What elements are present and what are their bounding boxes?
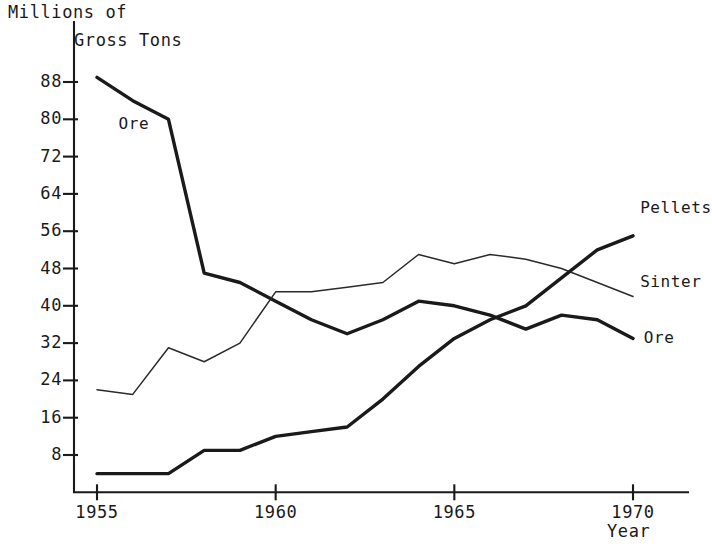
chart-series-lines [97, 77, 633, 473]
chart-tick-marks [63, 82, 633, 500]
series-label-ore: Ore [644, 328, 675, 347]
y-tick-label: 64 [10, 183, 62, 203]
series-label-pellets: Pellets [640, 198, 712, 217]
series-line-pellets [97, 236, 633, 474]
x-tick-label: 1955 [64, 502, 130, 522]
series-label-ore: Ore [118, 114, 149, 133]
series-label-sinter: Sinter [640, 272, 701, 291]
x-tick-label: 1960 [243, 502, 309, 522]
y-tick-label: 8 [10, 444, 62, 464]
y-tick-label: 80 [10, 108, 62, 128]
y-tick-label: 72 [10, 146, 62, 166]
x-axis-title: Year [607, 521, 650, 541]
y-tick-label: 56 [10, 220, 62, 240]
x-tick-label: 1970 [600, 502, 666, 522]
x-tick-label: 1965 [421, 502, 487, 522]
y-tick-label: 48 [10, 258, 62, 278]
y-tick-label: 32 [10, 332, 62, 352]
y-tick-label: 88 [10, 71, 62, 91]
series-line-sinter [97, 255, 633, 395]
chart-axes [74, 22, 688, 492]
y-tick-label: 24 [10, 369, 62, 389]
y-tick-label: 16 [10, 407, 62, 427]
series-line-ore [97, 77, 633, 338]
y-tick-label: 40 [10, 295, 62, 315]
axis-spine [74, 22, 688, 492]
y-axis-title-line2: Gross Tons [74, 30, 182, 50]
y-axis-title-line1: Millions of [8, 2, 127, 22]
